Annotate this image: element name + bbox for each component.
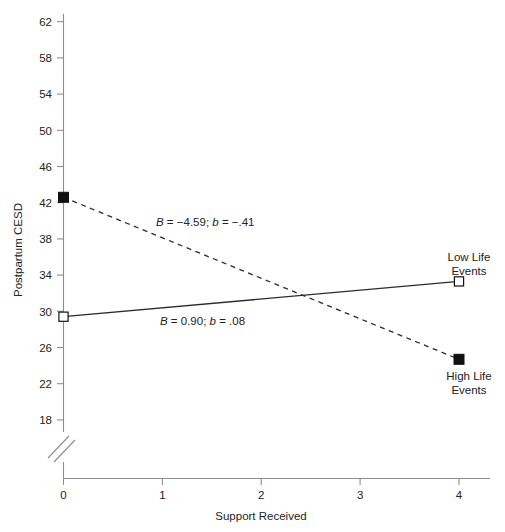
axis-break-icon xyxy=(48,436,75,462)
y-tick-group: 62 58 54 50 46 42 38 34 30 26 22 18 xyxy=(39,16,63,426)
series-high-life-events xyxy=(59,192,465,364)
annotation-high-eq2: = −.41 xyxy=(219,216,255,228)
series-label-high-life-events-line2: Events xyxy=(451,384,486,396)
series-label-low-life-events-line2: Events xyxy=(451,265,486,277)
series-line-low-life-events xyxy=(64,281,460,316)
series-label-high-life-events: High Life Events xyxy=(446,370,491,396)
y-tick-label-38: 38 xyxy=(39,233,52,245)
series-label-low-life-events-line1: Low Life xyxy=(448,251,491,263)
x-tick-label-3: 3 xyxy=(357,489,363,501)
y-axis-title: Postpartum CESD xyxy=(12,203,24,297)
series-line-high-life-events xyxy=(64,197,460,359)
series-low-life-events xyxy=(59,277,464,322)
series-label-high-life-events-line1: High Life xyxy=(446,370,491,382)
y-tick-label-42: 42 xyxy=(39,197,52,209)
x-tick-label-4: 4 xyxy=(456,489,463,501)
annotation-low-eq1: = 0.90; xyxy=(168,315,210,327)
axis-group xyxy=(48,14,490,479)
y-tick-label-50: 50 xyxy=(39,125,52,137)
chart-container: 62 58 54 50 46 42 38 34 30 26 22 18 xyxy=(0,0,505,532)
x-tick-label-2: 2 xyxy=(258,489,264,501)
data-point-low-life-events-x0 xyxy=(59,312,68,321)
interaction-plot-svg: 62 58 54 50 46 42 38 34 30 26 22 18 xyxy=(0,0,505,532)
y-tick-label-18: 18 xyxy=(39,414,52,426)
series-label-low-life-events: Low Life Events xyxy=(448,251,491,277)
x-tick-group: 0 1 2 3 4 xyxy=(60,479,463,502)
x-tick-label-0: 0 xyxy=(60,489,66,501)
annotation-high-eq1: = −4.59; xyxy=(164,216,213,228)
annotation-low-life-events: B = 0.90; b = .08 xyxy=(160,315,245,327)
y-tick-label-58: 58 xyxy=(39,52,52,64)
data-point-high-life-events-x0 xyxy=(59,192,69,202)
data-point-low-life-events-x4 xyxy=(454,277,463,286)
y-tick-label-26: 26 xyxy=(39,342,52,354)
y-tick-label-34: 34 xyxy=(39,269,52,281)
x-axis-title: Support Received xyxy=(215,510,306,522)
y-tick-label-54: 54 xyxy=(39,88,52,100)
annotation-high-life-events: B = −4.59; b = −.41 xyxy=(156,216,255,228)
x-tick-label-1: 1 xyxy=(159,489,165,501)
data-point-high-life-events-x4 xyxy=(454,354,464,364)
y-tick-label-62: 62 xyxy=(39,16,52,28)
y-tick-label-22: 22 xyxy=(39,378,52,390)
y-tick-label-30: 30 xyxy=(39,306,52,318)
y-tick-label-46: 46 xyxy=(39,161,52,173)
annotation-low-eq2: = .08 xyxy=(216,315,245,327)
